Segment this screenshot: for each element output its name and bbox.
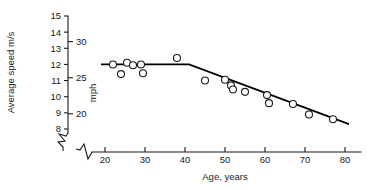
y-axis-tick-label-8: 8 bbox=[56, 123, 61, 134]
secondary-y-axis-title-mph: mph bbox=[87, 84, 98, 102]
x-axis-tick-label-60: 60 bbox=[260, 154, 271, 165]
data-point-marker bbox=[118, 71, 125, 78]
data-point-marker bbox=[290, 100, 297, 107]
x-axis-tick-label-30: 30 bbox=[140, 154, 151, 165]
average-speed-vs-age-scatter-chart: 89101112131415 202530 20304050607080 Ave… bbox=[0, 0, 375, 190]
data-point-marker bbox=[138, 61, 145, 68]
data-point-marker bbox=[202, 77, 209, 84]
secondary-y-axis-tick-label-25: 25 bbox=[76, 72, 87, 83]
data-point-marker bbox=[222, 76, 229, 83]
x-axis-title: Age, years bbox=[202, 171, 248, 182]
y-axis-tick-label-15: 15 bbox=[50, 10, 61, 21]
data-point-marker bbox=[266, 100, 273, 107]
y-axis-tick-label-11: 11 bbox=[51, 75, 61, 86]
data-point-marker bbox=[174, 54, 181, 61]
x-axis-tick-label-80: 80 bbox=[340, 154, 351, 165]
data-point-marker bbox=[330, 116, 337, 123]
secondary-y-axis-tick-label-30: 30 bbox=[76, 36, 87, 47]
y-axis-tick-label-12: 12 bbox=[50, 59, 61, 70]
data-point-marker bbox=[306, 111, 313, 118]
y-axis-tick-label-14: 14 bbox=[50, 27, 61, 38]
y-axis-tick-label-13: 13 bbox=[50, 43, 61, 54]
data-point-marker bbox=[140, 70, 147, 77]
data-point-marker bbox=[264, 92, 271, 99]
secondary-y-axis-tick-label-20: 20 bbox=[76, 108, 87, 119]
y-axis-tick-label-10: 10 bbox=[50, 91, 61, 102]
y-axis-tick-label-9: 9 bbox=[56, 107, 61, 118]
data-point-marker bbox=[242, 88, 249, 95]
x-axis-tick-label-40: 40 bbox=[180, 154, 191, 165]
chart-container: 89101112131415 202530 20304050607080 Ave… bbox=[0, 0, 375, 190]
data-point-marker bbox=[110, 61, 117, 68]
x-axis-tick-label-50: 50 bbox=[220, 154, 231, 165]
data-point-marker bbox=[130, 62, 137, 69]
y-axis-title: Average speed m/s bbox=[5, 31, 16, 113]
x-axis-tick-label-20: 20 bbox=[100, 154, 111, 165]
x-axis-tick-label-70: 70 bbox=[300, 154, 311, 165]
data-point-marker bbox=[230, 86, 237, 93]
